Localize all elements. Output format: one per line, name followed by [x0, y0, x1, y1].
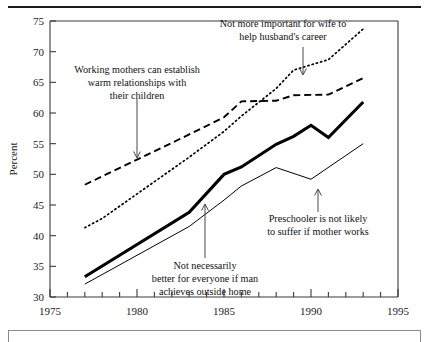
annotation-preschooler: Preschooler is not likely to suffer if m…	[267, 213, 369, 237]
y-axis-title: Percent	[7, 143, 19, 176]
annotation-line: better for everyone if man	[152, 273, 258, 284]
series-line-2	[85, 102, 363, 277]
annotation-line: Not more important for wife to	[220, 18, 346, 29]
y-tick-label: 50	[33, 168, 45, 180]
x-tick-label: 1995	[387, 305, 410, 317]
y-tick-label: 30	[33, 291, 45, 303]
y-tick-label: 35	[33, 260, 45, 272]
caption-box	[8, 330, 421, 342]
x-tick-label: 1990	[300, 305, 323, 317]
x-tick-label: 1975	[39, 305, 62, 317]
x-tick-label: 1985	[213, 305, 236, 317]
annotation-line: Working mothers can establish	[74, 64, 200, 75]
annotation-wife-career: Not more important for wife to help husb…	[220, 18, 346, 42]
annotation-line: warm relationships with	[88, 77, 186, 88]
annotation-working-mothers: Working mothers can establish warm relat…	[74, 64, 200, 101]
annotation-line: to suffer if mother works	[267, 226, 369, 237]
y-tick-label: 75	[33, 15, 45, 27]
arrow-wife-career	[300, 47, 307, 75]
y-tick-label: 55	[33, 138, 45, 150]
annotation-line: their children	[110, 90, 165, 101]
y-tick-label: 60	[33, 107, 45, 119]
y-axis-ticks: 30354045505560657075	[33, 15, 56, 303]
axes-frame	[50, 21, 398, 297]
x-tick-label: 1980	[126, 305, 149, 317]
annotation-line: achieves outside home	[159, 286, 252, 297]
series-line-0	[85, 29, 363, 228]
y-tick-label: 45	[33, 199, 45, 211]
annotation-line: help husband's career	[239, 31, 327, 42]
y-tick-label: 40	[33, 230, 45, 242]
annotation-line: Not necessarily	[173, 260, 237, 271]
annotation-man-achieves: Not necessarily better for everyone if m…	[152, 260, 258, 297]
y-tick-label: 70	[33, 46, 45, 58]
y-tick-label: 65	[33, 76, 45, 88]
arrow-preschooler	[315, 189, 322, 212]
annotation-line: Preschooler is not likely	[269, 213, 369, 224]
arrow-working-mothers	[134, 99, 141, 158]
